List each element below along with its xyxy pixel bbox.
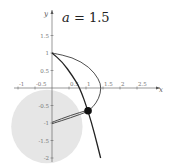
parametric-plot: -1-0.50.511.522.51.510.5-0.5-1-1.5-2 a =… <box>0 0 172 167</box>
x-tick-label: 2.5 <box>138 81 147 87</box>
title-value: 1.5 <box>89 10 110 25</box>
y-tick-label: 1 <box>46 50 50 56</box>
x-tick-label: 1.5 <box>104 81 113 87</box>
shaded-region <box>11 90 82 164</box>
highlight-point <box>84 107 92 115</box>
x-tick-label: -0.5 <box>36 81 47 87</box>
x-tick-label: 1 <box>87 81 91 87</box>
x-tick-label: -1 <box>19 81 24 87</box>
y-tick-label: -1 <box>44 120 49 126</box>
y-tick-label: -0.5 <box>38 103 49 109</box>
y-axis-arrow-icon <box>51 10 54 14</box>
shaded-blob <box>11 90 82 164</box>
chart-title: a = 1.5 <box>62 10 110 25</box>
y-tick-label: -1.5 <box>38 138 49 144</box>
y-axis-label: y <box>43 10 49 18</box>
x-axis-label: x <box>159 86 163 94</box>
y-tick-label: 0.5 <box>40 68 49 74</box>
x-tick-label: 2 <box>121 81 125 87</box>
y-tick-label: 1.5 <box>40 33 49 39</box>
intersection-dot-icon <box>84 107 92 115</box>
y-tick-label: -2 <box>44 155 49 161</box>
title-equals: = <box>70 10 89 25</box>
title-variable: a <box>62 10 70 25</box>
